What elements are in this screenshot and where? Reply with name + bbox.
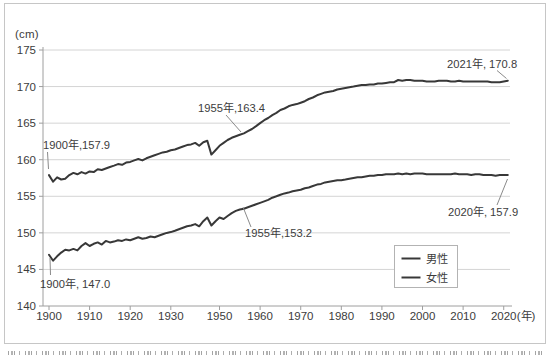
x-tick-label-1910: 1910 bbox=[77, 310, 103, 322]
y-tick-label-145: 145 bbox=[17, 263, 36, 275]
annotation-leader-3 bbox=[50, 258, 51, 275]
y-tick-label-155: 155 bbox=[17, 190, 36, 202]
x-tick-label-1990: 1990 bbox=[369, 310, 395, 322]
x-axis-unit-label: (年) bbox=[517, 309, 536, 322]
legend-label-female: 女性 bbox=[426, 271, 448, 284]
annotation-label-1: 1955年,163.4 bbox=[198, 101, 265, 114]
x-tick-label-1900: 1900 bbox=[36, 310, 62, 322]
height-trend-line-chart: 1401451501551601651701751900191019201930… bbox=[0, 0, 552, 356]
annotation-leader-5 bbox=[497, 179, 508, 205]
annotation-label-0: 1900年,157.9 bbox=[43, 138, 110, 151]
annotation-leader-2 bbox=[497, 71, 507, 79]
x-tick-label-1960: 1960 bbox=[247, 310, 273, 322]
annotation-label-3: 1900年, 147.0 bbox=[40, 277, 110, 290]
y-tick-label-140: 140 bbox=[17, 300, 36, 312]
x-tick-label-1930: 1930 bbox=[158, 310, 184, 322]
annotation-leader-4 bbox=[243, 207, 251, 227]
x-tick-label-2000: 2000 bbox=[410, 310, 436, 322]
annotation-label-4: 1955年,153.2 bbox=[245, 226, 312, 239]
y-tick-label-165: 165 bbox=[17, 117, 36, 129]
y-tick-label-150: 150 bbox=[17, 227, 36, 239]
annotation-label-2: 2021年, 170.8 bbox=[447, 57, 517, 70]
y-tick-label-175: 175 bbox=[17, 44, 36, 56]
x-tick-label-1920: 1920 bbox=[117, 310, 143, 322]
screenshot-root: { "chart_data": { "type": "line", "title… bbox=[0, 0, 552, 356]
cropped-caption-fragment bbox=[8, 351, 544, 355]
x-tick-label-2020: 2020 bbox=[491, 310, 517, 322]
male-series-line bbox=[49, 80, 508, 182]
annotation-label-5: 2020年, 157.9 bbox=[448, 205, 518, 218]
legend-label-male: 男性 bbox=[426, 252, 448, 265]
x-tick-label-2010: 2010 bbox=[450, 310, 476, 322]
y-tick-label-170: 170 bbox=[17, 81, 36, 93]
y-tick-label-160: 160 bbox=[17, 154, 36, 166]
x-tick-label-1950: 1950 bbox=[207, 310, 233, 322]
annotation-leader-0 bbox=[48, 152, 49, 169]
x-tick-label-1980: 1980 bbox=[329, 310, 355, 322]
x-tick-label-1970: 1970 bbox=[288, 310, 314, 322]
